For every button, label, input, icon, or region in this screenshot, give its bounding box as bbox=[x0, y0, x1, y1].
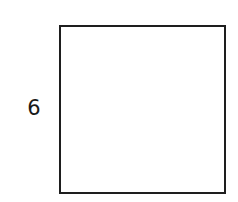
side-length-label: 6 bbox=[24, 95, 44, 121]
square-shape bbox=[59, 25, 226, 194]
